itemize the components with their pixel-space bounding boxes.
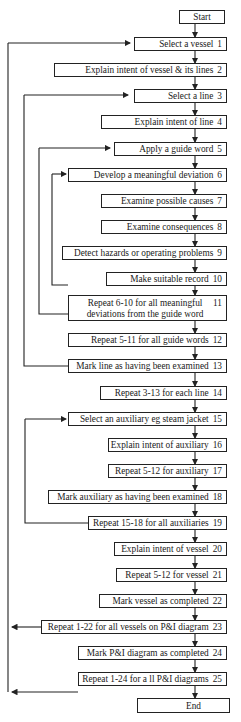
step-number: 11 bbox=[213, 298, 222, 309]
step-number: 3 bbox=[217, 91, 222, 101]
step-number: 21 bbox=[213, 570, 222, 580]
step-label: Repeat 1-24 for a ll P&I diagrams bbox=[82, 674, 209, 684]
step-number: 18 bbox=[213, 492, 222, 502]
step-2: Explain intent of vessel & its lines2 bbox=[54, 63, 227, 77]
start-label: Start bbox=[193, 12, 211, 22]
step-label: Detect hazards or operating problems bbox=[74, 248, 213, 258]
step-label: Mark P&I diagram as completed bbox=[87, 648, 209, 658]
step-label: Examine possible causes bbox=[121, 196, 213, 206]
step-number: 9 bbox=[217, 248, 222, 258]
step-number: 23 bbox=[213, 622, 222, 632]
step-number: 8 bbox=[217, 222, 222, 232]
step-label: Explain intent of auxiliary bbox=[111, 440, 209, 450]
step-3: Select a line3 bbox=[134, 89, 227, 103]
step-9: Detect hazards or operating problems9 bbox=[62, 246, 227, 260]
step-24: Mark P&I diagram as completed24 bbox=[78, 646, 227, 660]
step-label: Examine consequences bbox=[127, 222, 213, 232]
step-number: 14 bbox=[213, 388, 222, 398]
step-label: Repeat 6-10 for all meaningful deviation… bbox=[81, 298, 209, 319]
step-14: Repeat 3-13 for each line14 bbox=[100, 386, 227, 400]
step-15: Select an auxiliary eg steam jacket15 bbox=[68, 412, 227, 426]
step-21: Repeat 5-12 for vessel21 bbox=[116, 568, 227, 582]
step-label: Repeat 5-12 for auxiliary bbox=[115, 466, 209, 476]
step-number: 25 bbox=[213, 674, 222, 684]
step-number: 2 bbox=[217, 65, 222, 75]
step-label: Select an auxiliary eg steam jacket bbox=[80, 414, 209, 424]
step-label: Make suitable record bbox=[130, 274, 208, 284]
step-23: Repeat 1-22 for all vessels on P&I diagr… bbox=[41, 620, 227, 634]
end-terminal: End bbox=[137, 698, 230, 713]
step-number: 7 bbox=[217, 196, 222, 206]
step-label: Repeat 3-13 for each line bbox=[115, 388, 209, 398]
step-number: 6 bbox=[217, 170, 222, 180]
step-label: Explain intent of vessel bbox=[121, 544, 209, 554]
step-label: Develop a meaningful deviation bbox=[94, 170, 214, 180]
step-number: 13 bbox=[213, 361, 222, 371]
step-label: Mark line as having been examined bbox=[76, 361, 208, 371]
step-13: Mark line as having been examined13 bbox=[68, 359, 227, 373]
step-11: Repeat 6-10 for all meaningful deviation… bbox=[68, 295, 227, 321]
step-6: Develop a meaningful deviation6 bbox=[68, 168, 227, 182]
step-number: 12 bbox=[213, 335, 222, 345]
step-12: Repeat 5-11 for all guide words12 bbox=[68, 333, 227, 347]
step-number: 20 bbox=[213, 544, 222, 554]
step-label: Mark vessel as completed bbox=[112, 596, 208, 606]
step-number: 17 bbox=[213, 466, 222, 476]
step-label: Repeat 15-18 for all auxiliaries bbox=[93, 518, 209, 528]
step-label: Explain intent of vessel & its lines bbox=[85, 65, 213, 75]
end-label: End bbox=[186, 701, 201, 711]
step-number: 4 bbox=[217, 117, 222, 127]
step-8: Examine consequences8 bbox=[101, 220, 227, 234]
step-number: 24 bbox=[213, 648, 222, 658]
step-7: Examine possible causes7 bbox=[101, 194, 227, 208]
step-16: Explain intent of auxiliary16 bbox=[108, 438, 227, 452]
step-number: 15 bbox=[213, 414, 222, 424]
step-number: 16 bbox=[213, 440, 222, 450]
step-22: Mark vessel as completed22 bbox=[99, 594, 227, 608]
step-number: 19 bbox=[213, 518, 222, 528]
step-label: Select a line bbox=[168, 91, 213, 101]
step-number: 5 bbox=[217, 144, 222, 154]
step-25: Repeat 1-24 for a ll P&I diagrams25 bbox=[78, 672, 227, 686]
step-5: Apply a guide word5 bbox=[114, 142, 227, 156]
step-label: Explain intent of line bbox=[135, 117, 214, 127]
step-label: Repeat 5-12 for vessel bbox=[125, 570, 208, 580]
start-terminal: Start bbox=[179, 10, 225, 24]
step-20: Explain intent of vessel20 bbox=[114, 542, 227, 556]
step-label: Select a vessel bbox=[159, 39, 213, 49]
step-19: Repeat 15-18 for all auxiliaries19 bbox=[88, 516, 227, 530]
step-label: Mark auxiliary as having been examined bbox=[57, 492, 209, 502]
step-label: Repeat 5-11 for all guide words bbox=[91, 335, 209, 345]
step-4: Explain intent of line4 bbox=[101, 115, 227, 129]
step-number: 22 bbox=[213, 596, 222, 606]
step-10: Make suitable record10 bbox=[106, 272, 227, 286]
step-18: Mark auxiliary as having been examined18 bbox=[48, 490, 227, 504]
step-17: Repeat 5-12 for auxiliary17 bbox=[108, 464, 227, 478]
step-1: Select a vessel1 bbox=[134, 37, 227, 51]
step-number: 1 bbox=[217, 39, 222, 49]
step-number: 10 bbox=[213, 274, 222, 284]
step-label: Repeat 1-22 for all vessels on P&I diagr… bbox=[48, 622, 209, 632]
step-label: Apply a guide word bbox=[139, 144, 213, 154]
